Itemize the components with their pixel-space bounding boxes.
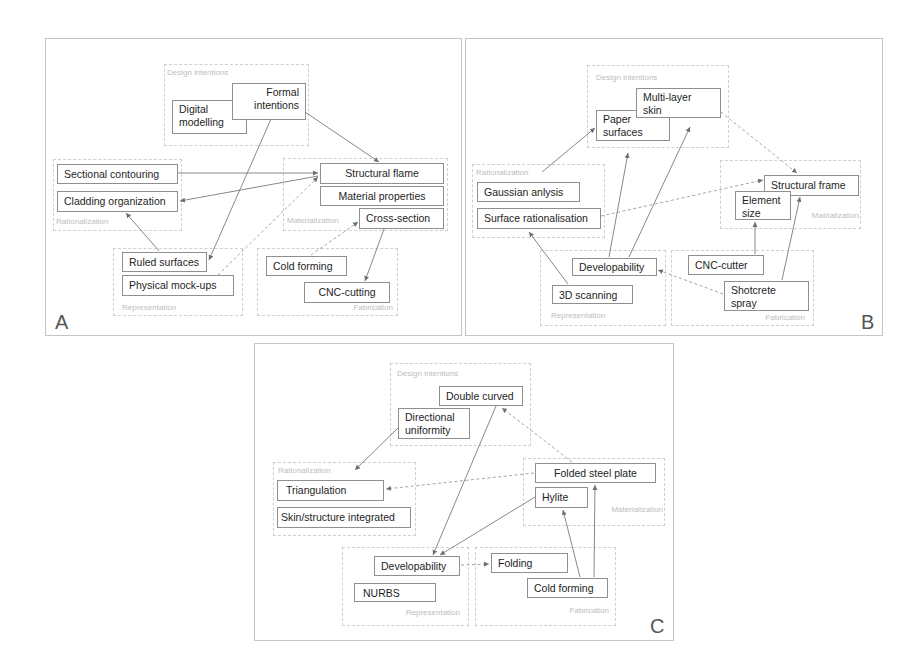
panel-letter-a: A — [55, 312, 68, 332]
group-label: Rationalization — [56, 218, 108, 226]
node-gaussian-analysis: Gaussian anlysis — [477, 182, 580, 202]
node-folded-steel-plate: Folded steel plate — [535, 463, 656, 483]
group-label: Materialization — [287, 217, 339, 225]
group-label: Design intentions — [167, 69, 228, 77]
group-label: Fabrication — [765, 314, 805, 322]
node-formal-intentions: Formal intentions — [232, 83, 306, 120]
node-shotcrete-spray: Shotcrete spray — [724, 281, 809, 311]
node-skin-structure-integrated: Skin/structure integrated — [277, 507, 411, 528]
node-cross-section: Cross-section — [359, 208, 444, 229]
node-nurbs: NURBS — [354, 583, 436, 602]
node-element-size: Element size — [735, 191, 791, 220]
group-label: Rationalization — [278, 467, 330, 475]
group-label: Representation — [406, 609, 460, 617]
node-physical-mockups: Physical mock-ups — [122, 275, 234, 296]
node-cold-forming: Cold forming — [266, 256, 347, 276]
group-label: Design intentions — [397, 370, 458, 378]
node-multi-layer-skin: Multi-layer skin — [636, 88, 721, 118]
group-label: Rationalization — [476, 169, 528, 177]
node-double-curved: Double curved — [439, 386, 523, 406]
node-directional-uniformity: Directional uniformity — [398, 408, 470, 439]
node-triangulation: Triangulation — [277, 480, 384, 501]
node-structural-flame: Structural flame — [320, 163, 444, 184]
node-developability-c: Developability — [374, 556, 460, 576]
group-label: Representation — [122, 304, 176, 312]
node-cold-forming-c: Cold forming — [527, 578, 608, 598]
node-folding: Folding — [491, 553, 568, 573]
group-label: Materialization — [611, 506, 663, 514]
node-cnc-cutter: CNC-cutter — [688, 255, 764, 275]
panel-letter-c: C — [650, 616, 664, 636]
panel-letter-b: B — [861, 312, 874, 332]
group-label: Fabrication — [353, 304, 393, 312]
group-label: Matrialization — [812, 212, 859, 220]
group-label: Representation — [551, 312, 605, 320]
node-hylite: Hylite — [535, 487, 588, 508]
node-3d-scanning: 3D scanning — [552, 285, 633, 304]
node-cladding-organization: Cladding organization — [57, 191, 178, 212]
group-label: Fabrication — [569, 607, 609, 615]
node-ruled-surfaces: Ruled surfaces — [122, 252, 207, 272]
node-surface-rationalisation: Surface rationalisation — [477, 208, 601, 229]
group-label: Design intentions — [596, 74, 657, 82]
node-sectional-contouring: Sectional contouring — [57, 164, 178, 184]
node-developability: Developability — [572, 258, 657, 276]
node-material-properties: Material properties — [320, 186, 444, 206]
node-cnc-cutting: CNC-cutting — [304, 282, 390, 303]
